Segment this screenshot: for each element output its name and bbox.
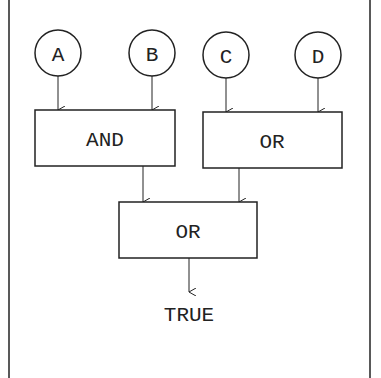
input-label-a: A [52, 44, 65, 67]
gate-or-top-label: OR [259, 131, 285, 154]
input-node-d: D [295, 32, 341, 78]
input-node-c: C [203, 32, 249, 78]
logic-diagram: A B C D AND OR OR TRUE [0, 0, 381, 378]
gate-and-label: AND [86, 129, 124, 152]
output-label: TRUE [164, 304, 214, 327]
gate-or-top: OR [203, 112, 342, 168]
input-label-c: C [220, 46, 233, 69]
input-label-d: D [312, 46, 325, 69]
input-label-b: B [146, 44, 159, 67]
gate-or-final-label: OR [175, 221, 201, 244]
input-node-b: B [129, 30, 175, 76]
input-node-a: A [35, 30, 81, 76]
gate-or-final: OR [119, 202, 257, 258]
gate-and: AND [35, 110, 175, 166]
